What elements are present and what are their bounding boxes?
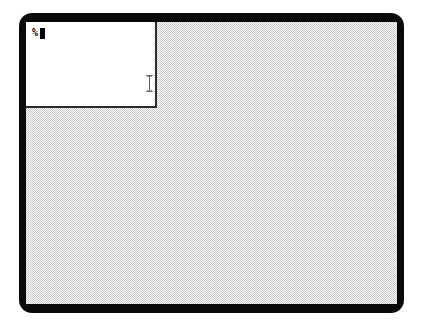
terminal-body[interactable]: % [26,22,155,106]
screenshot-root: % [0,0,422,331]
block-cursor-icon [40,28,45,39]
terminal-prompt-line: % [32,27,151,39]
terminal-window[interactable]: % [26,22,157,108]
desktop-root-window[interactable]: % [26,22,397,304]
shell-prompt-symbol: % [32,27,38,39]
